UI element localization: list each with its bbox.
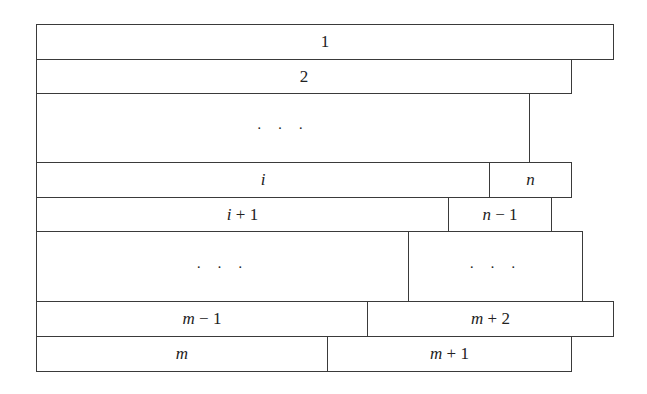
label-variable: n xyxy=(482,205,491,224)
box-i-plus-1: i + 1 xyxy=(36,197,449,232)
box-label: n − 1 xyxy=(482,205,517,225)
box-label: · · · xyxy=(257,118,310,138)
label-number: 1 xyxy=(460,344,469,363)
box-2: 2 xyxy=(36,59,572,94)
label-number: 1 xyxy=(509,205,518,224)
box-n-minus-1: n − 1 xyxy=(448,197,552,232)
ellipsis: · · · xyxy=(469,259,522,275)
box-label: m xyxy=(176,344,188,364)
box-dots-left: · · · xyxy=(36,231,409,302)
label-operator: + xyxy=(232,205,250,224)
box-m-plus-2: m + 2 xyxy=(367,301,614,337)
label-number: 2 xyxy=(300,67,309,86)
box-label: 2 xyxy=(300,67,309,87)
label-variable: m xyxy=(430,344,442,363)
box-label: i xyxy=(261,170,266,190)
box-label: m − 1 xyxy=(183,309,222,329)
box-m-minus-1: m − 1 xyxy=(36,301,368,337)
box-label: · · · xyxy=(196,257,249,277)
label-variable: m xyxy=(176,344,188,363)
label-number: 1 xyxy=(250,205,259,224)
label-variable: m xyxy=(471,309,483,328)
box-label: m + 1 xyxy=(430,344,469,364)
label-variable: n xyxy=(526,170,535,189)
box-m-plus-1: m + 1 xyxy=(327,336,572,372)
ellipsis: · · · xyxy=(196,259,249,275)
box-dots-top: · · · xyxy=(36,93,530,163)
label-operator: + xyxy=(442,344,460,363)
box-dots-right: · · · xyxy=(408,231,583,302)
box-label: m + 2 xyxy=(471,309,510,329)
box-1: 1 xyxy=(36,24,614,60)
label-operator: + xyxy=(483,309,501,328)
ellipsis: · · · xyxy=(257,120,310,136)
label-number: 2 xyxy=(501,309,510,328)
label-number: 1 xyxy=(321,32,330,51)
box-i: i xyxy=(36,162,490,198)
label-number: 1 xyxy=(213,309,222,328)
label-variable: i xyxy=(261,170,266,189)
box-label: · · · xyxy=(469,257,522,277)
label-variable: m xyxy=(183,309,195,328)
label-operator: − xyxy=(195,309,213,328)
box-n: n xyxy=(489,162,572,198)
box-m: m xyxy=(36,336,328,372)
box-label: i + 1 xyxy=(227,205,258,225)
label-operator: − xyxy=(491,205,509,224)
box-label: n xyxy=(526,170,535,190)
box-label: 1 xyxy=(321,32,330,52)
